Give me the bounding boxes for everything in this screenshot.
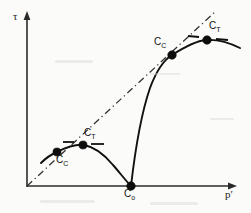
label-ct-small-sub: T bbox=[91, 133, 95, 140]
figure-container: τ p′ CC CT Co CC CT bbox=[0, 0, 251, 213]
label-cc-large: CC bbox=[154, 37, 166, 49]
label-co-sub: o bbox=[131, 194, 135, 201]
data-points-group bbox=[53, 36, 211, 191]
point-cc-large[interactable] bbox=[168, 51, 177, 60]
outer-yield-envelope-curve bbox=[131, 40, 240, 186]
curves-group bbox=[41, 40, 240, 186]
tick-large-left bbox=[188, 36, 199, 37]
y-axis-label: τ bbox=[13, 11, 17, 22]
label-ct-large-sub: T bbox=[216, 26, 220, 33]
point-ct-small[interactable] bbox=[79, 141, 87, 149]
point-ct-large[interactable] bbox=[203, 36, 212, 45]
x-axis-label: p′ bbox=[225, 189, 233, 200]
label-ct-small: CT bbox=[84, 128, 96, 140]
label-co: Co bbox=[124, 189, 135, 201]
label-ct-large: CT bbox=[209, 21, 221, 33]
label-cc-small: CC bbox=[56, 155, 68, 167]
tick-large-right bbox=[216, 39, 228, 40]
label-cc-large-sub: C bbox=[161, 42, 166, 49]
label-cc-small-sub: C bbox=[63, 160, 68, 167]
y-axis-arrow-icon bbox=[24, 11, 31, 20]
